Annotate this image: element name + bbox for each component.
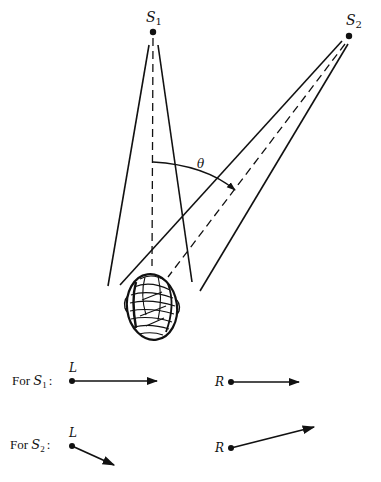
s2-beam xyxy=(120,41,348,291)
row-s2: For S2: L R xyxy=(10,426,314,465)
source-s1-dot xyxy=(150,29,156,35)
s1-beam-right-edge xyxy=(158,45,192,282)
svg-text:For S1:: For S1: xyxy=(12,373,52,390)
svg-text:L: L xyxy=(68,426,77,440)
listener-head-icon xyxy=(123,271,182,343)
svg-text:S2: S2 xyxy=(346,12,362,30)
s2-left-ear-vector: L xyxy=(68,426,114,465)
row-s1: For S1: L R xyxy=(12,361,299,390)
svg-text:L: L xyxy=(68,361,77,375)
s1-beam-left-edge xyxy=(108,45,149,286)
localization-diagram: S1 S2 θ xyxy=(0,0,381,482)
s1-right-ear-vector: R xyxy=(214,375,299,389)
theta-arc-arrow xyxy=(153,162,235,190)
svg-text:For S2:: For S2: xyxy=(10,437,50,454)
s2-beam-lower-edge xyxy=(200,44,348,291)
angle-theta: θ xyxy=(153,157,235,190)
svg-text:S1: S1 xyxy=(146,9,162,27)
source-s1: S1 xyxy=(146,9,162,35)
svg-text:θ: θ xyxy=(197,157,205,171)
source-s2: S2 xyxy=(346,12,362,39)
s2-right-ear-vector: R xyxy=(214,427,314,455)
svg-text:R: R xyxy=(214,441,224,455)
s1-beam-axis xyxy=(152,38,153,266)
svg-text:R: R xyxy=(214,375,224,389)
source-s2-dot xyxy=(346,33,352,39)
s1-beam xyxy=(108,38,192,286)
s1-left-ear-vector: L xyxy=(68,361,157,384)
s2-beam-axis xyxy=(168,44,345,277)
